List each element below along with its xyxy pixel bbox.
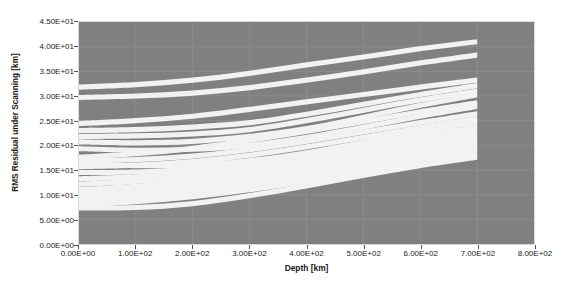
x-tick-mark [535,245,536,249]
y-tick-label: 1.00E+01 [22,191,74,200]
x-tick-label: 0.00E+00 [48,249,108,258]
y-tick-mark [74,121,78,122]
y-tick-label: 2.00E+01 [22,141,74,150]
y-tick-label: 4.00E+01 [22,41,74,50]
y-tick-label: 3.50E+01 [22,66,74,75]
x-tick-mark [78,245,79,249]
chart-container: RMS Residual under Scanning [km] 0.00E+0… [0,0,578,286]
x-tick-label: 2.00E+02 [162,249,222,258]
y-tick-label: 3.00E+01 [22,91,74,100]
y-tick-label: 5.00E+00 [22,216,74,225]
x-tick-label: 8.00E+02 [505,249,565,258]
x-tick-mark [364,245,365,249]
y-axis-tick-labels: 0.00E+005.00E+001.00E+011.50E+012.00E+01… [18,0,74,286]
series-canvas [79,22,534,244]
y-tick-label: 2.50E+01 [22,116,74,125]
x-tick-mark [135,245,136,249]
x-tick-mark [192,245,193,249]
y-tick-mark [74,71,78,72]
y-tick-label: 4.50E+01 [22,17,74,26]
y-tick-label: 1.50E+01 [22,166,74,175]
x-tick-label: 3.00E+02 [219,249,279,258]
y-tick-mark [74,21,78,22]
x-tick-label: 1.00E+02 [105,249,165,258]
y-tick-mark [74,220,78,221]
x-tick-mark [307,245,308,249]
x-tick-mark [249,245,250,249]
y-tick-mark [74,170,78,171]
y-tick-mark [74,46,78,47]
y-tick-mark [74,96,78,97]
y-tick-mark [74,195,78,196]
x-tick-label: 4.00E+02 [277,249,337,258]
x-tick-mark [478,245,479,249]
x-tick-label: 5.00E+02 [334,249,394,258]
x-axis-title: Depth [km] [78,263,535,273]
y-tick-mark [74,145,78,146]
x-tick-label: 6.00E+02 [391,249,451,258]
x-tick-mark [421,245,422,249]
plot-area [78,21,535,245]
x-tick-label: 7.00E+02 [448,249,508,258]
